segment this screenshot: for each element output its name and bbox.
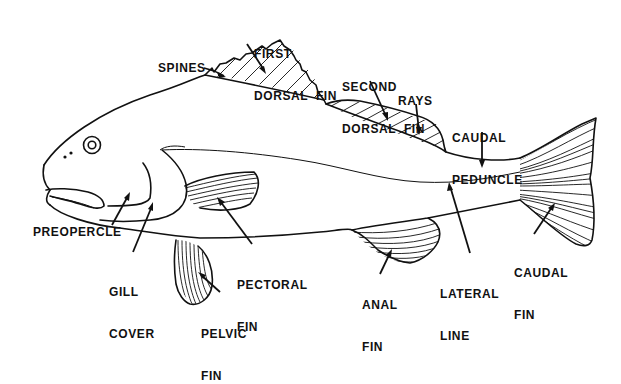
label-first-dorsal-fin: FIRST DORSAL FIN [254,19,337,131]
label-gill-cover: GILL COVER [109,257,155,369]
label-line: LATERAL [440,287,499,301]
label-line: GILL [109,285,155,299]
label-line: ANAL [362,298,398,312]
label-line: FIN [362,340,398,354]
label-line: CAUDAL [514,266,568,280]
label-spines: SPINES [158,61,206,75]
label-line: FIN [237,320,308,334]
label-preopercle: PREOPERCLE [33,225,122,239]
label-rays: RAYS [398,94,433,108]
label-line: PEDUNCLE [452,173,523,187]
label-line: COVER [109,327,155,341]
label-line: FIN [514,308,568,322]
label-line: FIRST [254,47,337,61]
label-pectoral-fin: PECTORAL FIN [237,250,308,362]
label-caudal-peduncle: CAUDAL PEDUNCLE [452,103,523,215]
caudal-fin-shape [516,118,600,248]
label-pelvic-fin: PELVIC FIN [201,299,247,384]
label-caudal-fin: CAUDAL FIN [514,238,568,350]
anal-fin-shape [350,218,442,263]
label-line: PELVIC [201,327,247,341]
label-second-dorsal-fin: SECOND DORSAL FIN [342,52,425,164]
label-line: DORSAL FIN [254,89,337,103]
label-line: CAUDAL [452,131,523,145]
label-line: FIN [201,369,247,383]
label-line: PECTORAL [237,278,308,292]
pelvic-fin-shape [175,240,213,304]
label-line: SECOND [342,80,425,94]
label-line: LINE [440,329,499,343]
label-anal-fin: ANAL FIN [362,270,398,382]
label-line: DORSAL FIN [342,122,425,136]
label-lateral-line: LATERAL LINE [440,259,499,371]
